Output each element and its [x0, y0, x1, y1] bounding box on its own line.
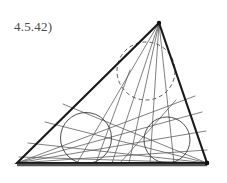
vertex-marker-bottom-right: [205, 161, 209, 165]
vertex-marker-bottom-left: [157, 21, 161, 25]
problem-number-label: 4.5.42): [14, 19, 52, 35]
geometry-figure-container: 4.5.42): [0, 0, 227, 183]
